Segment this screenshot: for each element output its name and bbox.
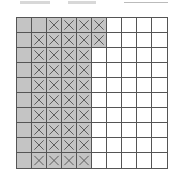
grid-cell-crossed	[62, 108, 77, 123]
grid-cell-empty	[107, 18, 122, 33]
grid-cell-crossed	[32, 48, 47, 63]
grid-cell-empty	[122, 93, 137, 108]
grid-cell-shaded	[17, 153, 32, 168]
cross-mark-icon	[62, 18, 76, 32]
grid-cell-crossed	[32, 108, 47, 123]
cross-mark-icon	[62, 63, 76, 77]
grid-cell-crossed	[77, 123, 92, 138]
grid-cell-crossed	[32, 33, 47, 48]
cross-mark-icon	[77, 108, 91, 122]
cross-mark-icon	[62, 93, 76, 107]
grid-cell-crossed	[77, 153, 92, 168]
grid-cell-empty	[137, 93, 152, 108]
cross-mark-icon	[77, 93, 91, 107]
grid-cell-crossed	[62, 18, 77, 33]
cross-mark-icon	[32, 48, 46, 62]
cross-mark-icon	[47, 78, 61, 92]
grid-cell-crossed	[77, 33, 92, 48]
grid-cell-crossed	[62, 138, 77, 153]
grid-cell-empty	[152, 78, 167, 93]
grid-cell-crossed	[32, 123, 47, 138]
grid-cell-empty	[137, 153, 152, 168]
cross-mark-icon	[32, 63, 46, 77]
cross-mark-icon	[62, 123, 76, 137]
cross-mark-icon	[92, 33, 106, 47]
grid-cell-empty	[152, 18, 167, 33]
grid-cell-empty	[137, 18, 152, 33]
grid-cell-empty	[137, 108, 152, 123]
grid-cell-crossed	[77, 93, 92, 108]
grid-cell-crossed	[62, 78, 77, 93]
cross-mark-icon	[32, 153, 46, 168]
cross-mark-icon	[47, 33, 61, 47]
grid-cell-crossed	[62, 93, 77, 108]
grid-cell-shaded	[17, 48, 32, 63]
grid-cell-empty	[92, 153, 107, 168]
grid-cell-crossed	[77, 78, 92, 93]
cropped-text-fragment	[20, 1, 50, 4]
cross-mark-icon	[77, 48, 91, 62]
grid-cell-empty	[152, 153, 167, 168]
grid-cell-shaded	[17, 78, 32, 93]
grid-cell-empty	[137, 63, 152, 78]
grid-cell-empty	[92, 108, 107, 123]
cross-mark-icon	[47, 48, 61, 62]
cross-mark-icon	[77, 153, 91, 168]
grid-cell-empty	[122, 138, 137, 153]
cross-mark-icon	[47, 93, 61, 107]
grid-cell-empty	[137, 123, 152, 138]
grid-cell-crossed	[32, 63, 47, 78]
grid-cell-empty	[122, 153, 137, 168]
cross-mark-icon	[47, 138, 61, 152]
grid-cell-empty	[92, 63, 107, 78]
grid-cell-crossed	[32, 78, 47, 93]
grid-cell-crossed	[47, 153, 62, 168]
cross-mark-icon	[47, 18, 61, 32]
grid-cell-shaded	[17, 63, 32, 78]
grid-cell-empty	[122, 78, 137, 93]
grid-cell-crossed	[32, 153, 47, 168]
cross-mark-icon	[77, 138, 91, 152]
grid-cell-crossed	[62, 63, 77, 78]
hundred-grid	[16, 17, 168, 169]
cross-mark-icon	[32, 123, 46, 137]
cross-mark-icon	[62, 48, 76, 62]
grid-cell-crossed	[77, 48, 92, 63]
cross-mark-icon	[32, 93, 46, 107]
grid-cell-crossed	[62, 33, 77, 48]
grid-cell-crossed	[92, 18, 107, 33]
grid-cell-shaded	[17, 93, 32, 108]
grid-cell-empty	[107, 78, 122, 93]
cross-mark-icon	[47, 63, 61, 77]
grid-cell-crossed	[47, 138, 62, 153]
grid-cell-crossed	[47, 63, 62, 78]
grid-cell-crossed	[47, 108, 62, 123]
grid-cell-empty	[107, 153, 122, 168]
grid-cell-empty	[137, 33, 152, 48]
grid-cell-empty	[152, 138, 167, 153]
grid-cell-crossed	[77, 18, 92, 33]
cropped-header-text	[0, 0, 174, 6]
cross-mark-icon	[62, 33, 76, 47]
cross-mark-icon	[32, 78, 46, 92]
grid-cell-empty	[152, 123, 167, 138]
grid-cell-empty	[107, 63, 122, 78]
grid-cell-empty	[152, 93, 167, 108]
grid-cell-empty	[122, 18, 137, 33]
grid-cell-empty	[92, 48, 107, 63]
grid-cell-empty	[137, 138, 152, 153]
grid-cell-empty	[137, 78, 152, 93]
grid-cell-empty	[122, 108, 137, 123]
grid-cell-shaded	[17, 33, 32, 48]
grid-cell-empty	[122, 48, 137, 63]
grid-cell-empty	[152, 63, 167, 78]
grid-cell-empty	[107, 138, 122, 153]
cross-mark-icon	[92, 18, 106, 32]
grid-cell-crossed	[47, 123, 62, 138]
grid-cell-crossed	[47, 18, 62, 33]
grid-cell-shaded	[17, 108, 32, 123]
grid-cell-crossed	[92, 33, 107, 48]
cross-mark-icon	[77, 63, 91, 77]
grid-cell-shaded	[32, 18, 47, 33]
grid-cell-empty	[92, 93, 107, 108]
